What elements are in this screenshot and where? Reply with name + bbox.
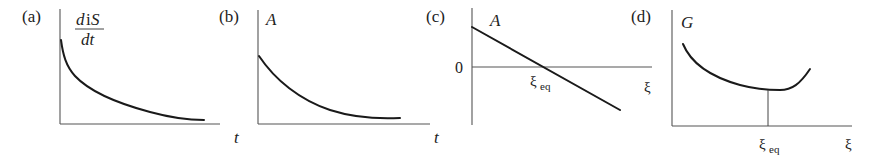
y-label-a-numerator-S: S bbox=[91, 10, 100, 29]
y-label-a-numerator-d: d bbox=[76, 10, 85, 29]
panel-label-d: (d) bbox=[631, 7, 651, 26]
curve-d bbox=[683, 44, 810, 90]
y-label-d: G bbox=[681, 13, 693, 32]
curve-b bbox=[259, 56, 400, 118]
eq-sub-d: eq bbox=[769, 143, 780, 155]
x-label-a: t bbox=[234, 128, 240, 147]
x-label-d: ξ bbox=[845, 136, 852, 152]
panel-a: (a) d i S dt t bbox=[22, 7, 240, 147]
curve-a bbox=[61, 40, 204, 120]
y-label-b: A bbox=[265, 10, 277, 29]
x-label-b: t bbox=[434, 128, 440, 147]
eq-label-d: ξ bbox=[759, 136, 766, 152]
panel-label-b: (b) bbox=[219, 7, 239, 26]
curve-c bbox=[472, 27, 620, 110]
zero-label-c: 0 bbox=[455, 59, 463, 76]
x-label-c: ξ bbox=[644, 79, 651, 95]
panel-b: (b) A t bbox=[219, 7, 440, 147]
y-label-a-denominator: dt bbox=[81, 30, 96, 49]
eq-sub-c: eq bbox=[540, 80, 551, 92]
y-label-c: A bbox=[489, 11, 501, 30]
panel-c: (c) 0 A ξ eq ξ bbox=[426, 7, 652, 125]
panel-d: (d) G ξ eq ξ bbox=[631, 7, 852, 155]
panel-label-c: (c) bbox=[426, 7, 445, 26]
panel-label-a: (a) bbox=[22, 7, 41, 26]
eq-label-c: ξ bbox=[530, 73, 537, 89]
figure-canvas: (a) d i S dt t (b) A t (c) 0 A ξ eq ξ (d… bbox=[0, 0, 876, 157]
